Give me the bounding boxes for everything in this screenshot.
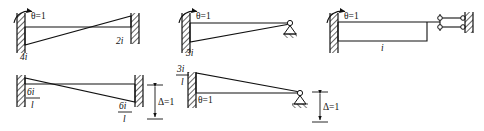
panel-5-near-end-fraction: 3i l xyxy=(176,64,189,87)
panel-5-cause-label: Δ=1 xyxy=(323,102,339,112)
panel-5-near-end-denominator: l xyxy=(181,77,184,87)
panel-5-diagram: 3i l θ=1 Δ=1 xyxy=(176,64,339,122)
panel-3-cause-label: θ=1 xyxy=(344,11,359,21)
panel-3-moment-diagram xyxy=(338,22,427,41)
panel-4-displacement-dimension: Δ=1 xyxy=(147,85,174,119)
panel-4-far-end-denominator: l xyxy=(123,114,126,124)
panel-1-diagram: θ=1 4i 2i xyxy=(14,11,139,62)
beam-stiffness-figure: θ=1 4i 2i θ=1 3i xyxy=(0,0,484,131)
panel-4-near-end-fraction: 6i l xyxy=(26,87,40,110)
panel-1-left-fixed-support-icon xyxy=(17,13,25,53)
panel-1-right-fixed-support-icon xyxy=(131,13,139,44)
panel-4-moment-diagram xyxy=(25,78,135,102)
panel-2-moment-diagram xyxy=(190,23,290,42)
panel-1-cause-label: θ=1 xyxy=(31,11,46,21)
panel-4-far-end-fraction: 6i l xyxy=(118,101,132,124)
panel-2-cause-label: θ=1 xyxy=(196,11,211,21)
panel-5-left-fixed-support-icon xyxy=(188,72,196,108)
panel-2-diagram: θ=1 3i xyxy=(179,11,297,58)
panel-3-left-fixed-support-icon xyxy=(330,13,338,53)
panel-4-near-end-numerator: 6i xyxy=(27,87,35,97)
panel-3-guided-support-icon xyxy=(438,12,473,33)
panel-1-near-end-label: 4i xyxy=(20,52,28,62)
panel-5-rotation-label: θ=1 xyxy=(198,95,213,105)
panel-4-cause-label: Δ=1 xyxy=(158,97,174,107)
panel-2-near-end-label: 3i xyxy=(185,48,194,58)
panel-4-left-fixed-support-icon xyxy=(17,75,25,107)
panel-4-near-end-denominator: l xyxy=(31,100,34,110)
panel-2-left-fixed-support-icon xyxy=(182,13,190,53)
panel-3-near-end-label: i xyxy=(381,43,384,53)
panel-1-far-end-label: 2i xyxy=(116,36,124,46)
figure-root: θ=1 4i 2i θ=1 3i xyxy=(0,0,484,131)
panel-4-far-end-numerator: 6i xyxy=(119,101,127,111)
panel-5-displacement-dimension: Δ=1 xyxy=(312,92,339,122)
panel-4-right-fixed-support-icon xyxy=(135,75,143,107)
panel-3-diagram: θ=1 i xyxy=(327,11,473,53)
panel-5-moment-diagram xyxy=(196,73,300,93)
panel-4-diagram: 6i l 6i l Δ=1 xyxy=(17,75,174,124)
panel-5-near-end-numerator: 3i xyxy=(176,64,185,74)
